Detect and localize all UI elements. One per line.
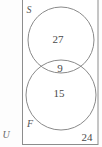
venn-diagram-figure: S F U 27 9 15 24 [0, 0, 102, 147]
count-set-f-only: 15 [54, 87, 66, 99]
venn-diagram-canvas: S F U 27 9 15 24 [0, 0, 102, 147]
set-label-s: S [27, 4, 32, 15]
count-outside-both: 24 [82, 131, 94, 143]
count-intersection: 9 [57, 62, 63, 74]
count-set-s-only: 27 [53, 33, 65, 45]
universe-label: U [2, 129, 10, 140]
set-label-f: F [26, 118, 34, 129]
